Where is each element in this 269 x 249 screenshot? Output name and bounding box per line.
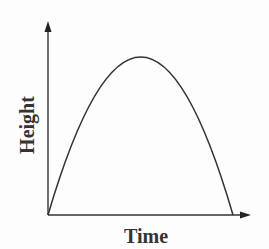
y-axis-label: Height <box>16 96 39 154</box>
x-axis-label: Time <box>124 225 168 248</box>
x-axis-arrow-icon <box>240 212 251 219</box>
diagram-graphic <box>0 0 269 249</box>
y-axis-arrow-icon <box>45 21 52 32</box>
height-time-diagram: Height Time <box>0 0 269 249</box>
trajectory-curve <box>48 57 233 215</box>
